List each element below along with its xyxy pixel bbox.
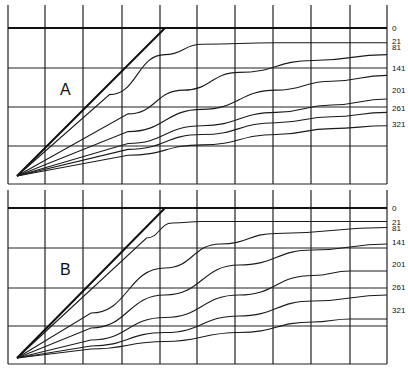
- curve-321: [17, 126, 387, 176]
- curve-201: [17, 99, 387, 176]
- panel-a: 02181141201261321A: [8, 5, 406, 184]
- curve-label: 141: [392, 238, 406, 247]
- curve-label: 81: [392, 43, 401, 52]
- curve-label: 0: [392, 24, 397, 33]
- panel-label: B: [60, 261, 71, 278]
- curve-label: 261: [392, 283, 406, 292]
- curve-label: 201: [392, 86, 406, 95]
- curve-label: 321: [392, 120, 406, 129]
- panel-b: 02181141201261321B: [8, 190, 406, 364]
- curve-label: 261: [392, 104, 406, 113]
- curve-201: [17, 271, 387, 358]
- curve-label: 201: [392, 260, 406, 269]
- curve-label: 141: [392, 64, 406, 73]
- panel-label: A: [60, 81, 71, 98]
- curve-81: [17, 228, 387, 359]
- curve-81: [17, 55, 387, 176]
- curve-label: 321: [392, 306, 406, 315]
- curve-label: 81: [392, 224, 401, 233]
- curve-label: 0: [392, 204, 397, 213]
- figure-diagram: 02181141201261321A 02181141201261321B: [0, 0, 408, 370]
